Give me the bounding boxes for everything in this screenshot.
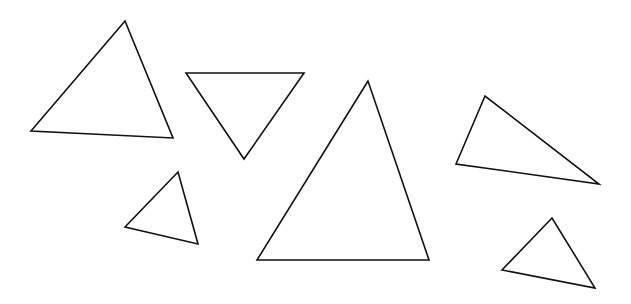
triangles-diagram bbox=[0, 0, 631, 304]
triangle-large-upper-left bbox=[31, 21, 173, 138]
triangle-largest-center bbox=[257, 81, 429, 260]
triangle-small-lower-right bbox=[502, 218, 595, 288]
triangle-inverted bbox=[186, 73, 304, 159]
triangle-right-elongated bbox=[456, 96, 599, 184]
triangle-small-lower-left bbox=[125, 172, 198, 244]
